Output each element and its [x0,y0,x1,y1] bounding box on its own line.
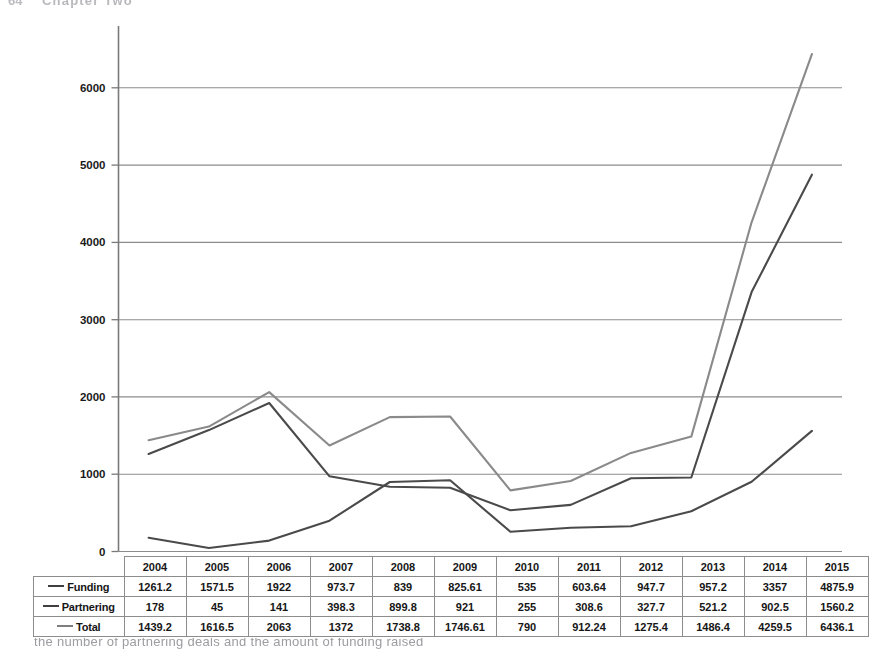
table-cell: 521.2 [682,597,744,617]
legend-line-icon [43,605,59,607]
page-number: 64 [8,0,22,8]
table-cell: 3357 [744,577,806,597]
table-cell: 921 [434,597,496,617]
series-label: Partnering [62,601,115,613]
table-cell: 178 [124,597,186,617]
y-tick-label: 6000 [80,82,106,94]
table-column-header: 2010 [496,557,558,577]
chart-canvas: 0100020003000400050006000 [0,11,880,556]
table-cell: 255 [496,597,558,617]
y-tick-label: 4000 [80,236,106,248]
table-column-header: 2009 [434,557,496,577]
table-column-header: 2007 [310,557,372,577]
table-cell: 45 [186,597,248,617]
series-line-funding [149,175,812,511]
table-row: Funding1261.21571.51922973.7839825.61535… [34,577,869,597]
data-table: 2004200520062007200820092010201120122013… [33,556,869,637]
series-line-partnering [149,431,812,548]
table-column-header: 2004 [124,557,186,577]
table-head: 2004200520062007200820092010201120122013… [34,557,869,577]
table-cell: 6436.1 [806,617,868,637]
table-cell: 1372 [310,617,372,637]
table-cell: 4259.5 [744,617,806,637]
table-cell: 4875.9 [806,577,868,597]
y-tick-label: 2000 [80,391,106,403]
table-row: Total1439.21616.5206313721738.81746.6179… [34,617,869,637]
table-cell: 1486.4 [682,617,744,637]
table-cell: 603.64 [558,577,620,597]
line-chart: 0100020003000400050006000 [0,11,880,556]
y-tick-label: 5000 [80,159,106,171]
table-column-header: 2015 [806,557,868,577]
table-body: Funding1261.21571.51922973.7839825.61535… [34,577,869,637]
table-cell: 1261.2 [124,577,186,597]
series-legend-row-total: Total [34,617,125,637]
y-tick-label: 0 [99,546,105,557]
data-table-container: 2004200520062007200820092010201120122013… [33,556,855,632]
table-cell: 398.3 [310,597,372,617]
y-tick-label: 1000 [80,468,106,480]
table-column-header: 2012 [620,557,682,577]
y-tick-label: 3000 [80,314,106,326]
table-cell: 790 [496,617,558,637]
table-cell: 2063 [248,617,310,637]
footer-caption-text: the number of partnering deals and the a… [34,638,424,649]
table-cell: 1922 [248,577,310,597]
table-cell: 957.2 [682,577,744,597]
table-cell: 1571.5 [186,577,248,597]
series-legend-row-partnering: Partnering [34,597,125,617]
page-footer-caption: the number of partnering deals and the a… [0,638,880,657]
table-cell: 973.7 [310,577,372,597]
table-cell: 141 [248,597,310,617]
y-tick-labels-group: 0100020003000400050006000 [80,82,106,556]
table-cell: 825.61 [434,577,496,597]
table-corner-cell [34,557,125,577]
y-tick-marks-group [112,88,119,552]
table-column-header: 2006 [248,557,310,577]
table-cell: 1616.5 [186,617,248,637]
table-cell: 308.6 [558,597,620,617]
table-cell: 899.8 [372,597,434,617]
gridlines-group [119,88,843,552]
series-line-total [149,54,812,490]
running-head-title: Chapter Two [42,0,133,8]
table-cell: 1560.2 [806,597,868,617]
table-column-header: 2014 [744,557,806,577]
table-cell: 1439.2 [124,617,186,637]
table-cell: 1746.61 [434,617,496,637]
table-cell: 947.7 [620,577,682,597]
table-row: Partnering17845141398.3899.8921255308.63… [34,597,869,617]
series-legend-row-funding: Funding [34,577,125,597]
table-cell: 912.24 [558,617,620,637]
table-cell: 839 [372,577,434,597]
series-label: Total [76,621,100,633]
table-cell: 902.5 [744,597,806,617]
series-label: Funding [67,581,109,593]
legend-line-icon [57,625,73,627]
table-cell: 1275.4 [620,617,682,637]
table-column-header: 2011 [558,557,620,577]
table-column-header: 2013 [682,557,744,577]
table-column-header: 2005 [186,557,248,577]
table-cell: 1738.8 [372,617,434,637]
page-running-head: 64 Chapter Two [0,0,880,11]
legend-line-icon [48,585,64,587]
table-header-row: 2004200520062007200820092010201120122013… [34,557,869,577]
table-cell: 535 [496,577,558,597]
table-cell: 327.7 [620,597,682,617]
table-column-header: 2008 [372,557,434,577]
